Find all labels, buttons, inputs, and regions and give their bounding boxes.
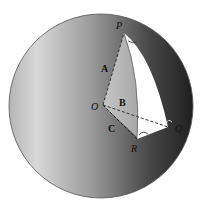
label-r: R	[130, 143, 137, 154]
sphere	[9, 14, 193, 198]
label-a: A	[101, 63, 109, 74]
sphere-diagram: P O Q R A B C	[0, 0, 201, 208]
label-q: Q	[175, 123, 183, 134]
label-o: O	[91, 101, 98, 112]
label-b: B	[119, 97, 126, 108]
label-p: P	[115, 20, 122, 31]
label-c: C	[108, 123, 115, 134]
